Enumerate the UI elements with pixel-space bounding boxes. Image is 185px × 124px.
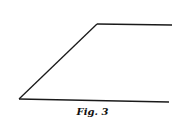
bottom-edge-line xyxy=(19,99,169,102)
figure-caption: Fig. 3 xyxy=(0,106,185,117)
slanted-edge-line xyxy=(19,24,97,99)
top-edge-line xyxy=(97,24,172,25)
